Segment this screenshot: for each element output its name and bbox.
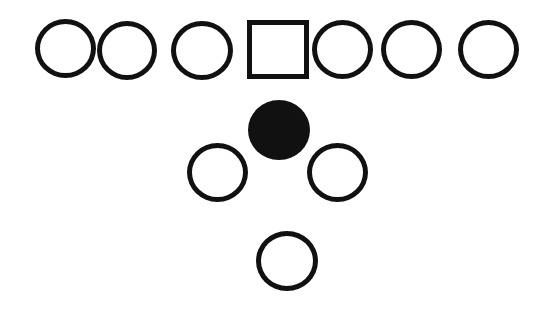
player-6-circle-icon (381, 20, 442, 79)
left-back-circle-icon (187, 143, 248, 202)
player-2-circle-icon (97, 21, 157, 80)
player-5-circle-icon (312, 20, 373, 79)
tailback-circle-icon (256, 231, 318, 291)
right-back-circle-icon (307, 143, 368, 202)
quarterback-filled-circle-icon (248, 100, 310, 160)
center-square-icon (247, 20, 309, 79)
player-3-circle-icon (171, 21, 233, 80)
player-7-circle-icon (458, 20, 519, 79)
player-1-circle-icon (35, 19, 96, 78)
